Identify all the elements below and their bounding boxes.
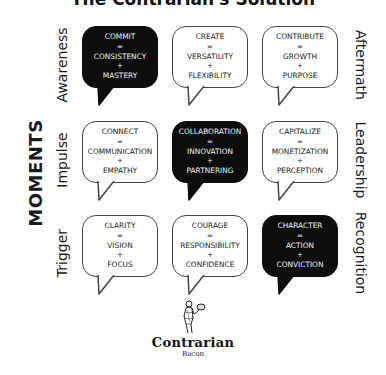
- bubble-bottom-term: PARTNERING: [187, 166, 234, 177]
- waiter-figure-icon: [178, 300, 208, 334]
- speech-bubble: COMMIT=CONSISTENCY+MASTERY: [82, 26, 158, 88]
- bubble-middle-term: CONSISTENCY: [94, 52, 146, 63]
- bubble-tail-icon: [97, 86, 115, 106]
- plus-sign: +: [297, 157, 303, 166]
- speech-bubble: CONTRIBUTE=GROWTH+PURPOSE: [262, 26, 338, 88]
- equals-sign: =: [117, 138, 123, 147]
- bubble-tail-icon: [97, 275, 115, 295]
- plus-sign: +: [207, 157, 213, 166]
- brand-logo: Contrarian Bacon: [0, 300, 386, 358]
- bubble-middle-term: VERSATILITY: [187, 52, 233, 63]
- bubble-top-term: CLARITY: [105, 221, 136, 232]
- bubble-tail-icon: [277, 181, 295, 201]
- bubble-top-term: COLLABORATION: [179, 127, 242, 138]
- bubble-middle-term: VISION: [107, 241, 132, 252]
- bubble-middle-term: INNOVATION: [187, 147, 233, 158]
- bubble-bottom-term: MASTERY: [103, 71, 137, 82]
- bubble-top-term: CONNECT: [102, 127, 138, 138]
- bubble-bottom-term: FOCUS: [107, 260, 132, 271]
- row-label-recognition: Recognition: [352, 208, 370, 298]
- bubble-middle-term: RESPONSIBILITY: [180, 241, 240, 252]
- bubble-middle-term: MONETIZATION: [272, 147, 329, 158]
- bubble-middle-term: ACTION: [286, 241, 314, 252]
- bubble-middle-term: GROWTH: [283, 52, 317, 63]
- plus-sign: +: [297, 251, 303, 260]
- plus-sign: +: [297, 62, 303, 71]
- bubble-tail-icon: [97, 181, 115, 201]
- speech-bubble: COLLABORATION=INNOVATION+PARTNERING: [172, 121, 248, 183]
- moments-axis-label: MOMENTS: [25, 113, 47, 233]
- bubble-bottom-term: FLEXIBILITY: [189, 71, 232, 82]
- speech-bubble: CONNECT=COMMUNICATION+EMPATHY: [82, 121, 158, 183]
- bubble-top-term: CONTRIBUTE: [276, 32, 324, 43]
- equals-sign: =: [297, 43, 303, 52]
- bubble-top-term: COURAGE: [192, 221, 229, 232]
- plus-sign: +: [117, 62, 123, 71]
- bubble-top-term: CHARACTER: [277, 221, 322, 232]
- speech-bubble: CAPITALIZE=MONETIZATION+PERCEPTION: [262, 121, 338, 183]
- plus-sign: +: [207, 251, 213, 260]
- bubble-tail-icon: [277, 275, 295, 295]
- bubble-middle-term: COMMUNICATION: [88, 147, 153, 158]
- equals-sign: =: [297, 232, 303, 241]
- bubble-bottom-term: CONVICTION: [277, 260, 324, 271]
- speech-bubble: CHARACTER=ACTION+CONVICTION: [262, 215, 338, 277]
- equals-sign: =: [117, 43, 123, 52]
- row-label-awareness: Awareness: [53, 20, 71, 110]
- equals-sign: =: [297, 138, 303, 147]
- speech-bubble: CLARITY=VISION+FOCUS: [82, 215, 158, 277]
- bubble-bottom-term: PERCEPTION: [277, 166, 323, 177]
- plus-sign: +: [207, 62, 213, 71]
- speech-bubble: COURAGE=RESPONSIBILITY+CONFIDENCE: [172, 215, 248, 277]
- bubble-top-term: COMMIT: [105, 32, 135, 43]
- equals-sign: =: [207, 232, 213, 241]
- brand-subtitle: Bacon: [0, 350, 386, 358]
- row-label-impulse: Impulse: [53, 115, 71, 205]
- brand-name: Contrarian: [0, 335, 386, 350]
- bubble-tail-icon: [187, 181, 205, 201]
- bubble-tail-icon: [187, 86, 205, 106]
- row-label-leadership: Leadership: [352, 115, 370, 205]
- speech-bubble: CREATE=VERSATILITY+FLEXIBILITY: [172, 26, 248, 88]
- equals-sign: =: [207, 138, 213, 147]
- plus-sign: +: [117, 251, 123, 260]
- bubble-top-term: CAPITALIZE: [279, 127, 321, 138]
- plus-sign: +: [117, 157, 123, 166]
- bubble-bottom-term: EMPATHY: [103, 166, 137, 177]
- bubble-bottom-term: PURPOSE: [283, 71, 318, 82]
- diagram-title: The Contrarian's Solution: [0, 0, 386, 9]
- row-label-aftermath: Aftermath: [352, 20, 370, 110]
- equals-sign: =: [117, 232, 123, 241]
- bubble-tail-icon: [187, 275, 205, 295]
- bubble-bottom-term: CONFIDENCE: [186, 260, 235, 271]
- equals-sign: =: [207, 43, 213, 52]
- bubble-tail-icon: [277, 86, 295, 106]
- bubble-top-term: CREATE: [196, 32, 225, 43]
- row-label-trigger: Trigger: [53, 208, 71, 298]
